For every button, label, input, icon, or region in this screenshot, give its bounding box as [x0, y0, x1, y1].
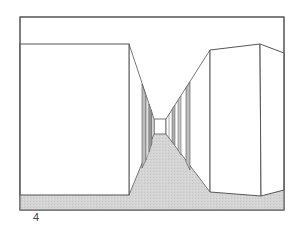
left-side-opening-2	[146, 96, 149, 160]
right-side-opening-2	[178, 96, 181, 155]
left-near-wall	[20, 44, 129, 195]
right-side-opening-1	[186, 82, 190, 170]
level-number: 4	[33, 211, 39, 223]
corridor-end-wall	[154, 119, 166, 134]
right-side-opening-3	[172, 105, 175, 145]
left-side-opening-3	[149, 104, 152, 152]
right-near-wall-front	[210, 44, 261, 196]
maze-3d-view	[0, 0, 293, 234]
left-side-opening-1	[142, 84, 146, 168]
right-near-wall-side	[260, 44, 284, 196]
